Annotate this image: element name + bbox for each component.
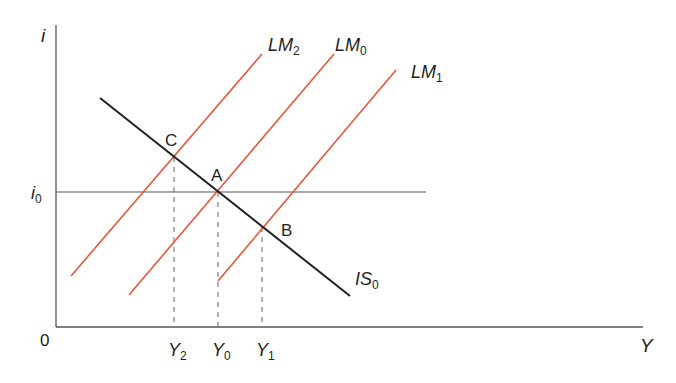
- lm1-label: LM1: [411, 62, 443, 85]
- point-a-label: A: [211, 166, 223, 185]
- is-lm-diagram: i Y 0 i0 LM2 LM0 LM1 IS0 C A B Y2 Y0 Y1: [0, 0, 676, 383]
- is0-label: IS0: [355, 269, 379, 292]
- y1-tick-label: Y1: [256, 340, 275, 363]
- lm2-curve: [71, 54, 262, 276]
- y2-tick-label: Y2: [168, 340, 187, 363]
- point-b-label: B: [281, 221, 292, 240]
- origin-label: 0: [40, 331, 49, 350]
- x-axis-label: Y: [640, 335, 654, 356]
- lm2-label: LM2: [268, 35, 300, 58]
- i0-label: i0: [31, 183, 42, 206]
- y0-tick-label: Y0: [212, 340, 231, 363]
- lm0-label: LM0: [335, 35, 367, 58]
- lm1-curve: [218, 70, 396, 281]
- is0-curve: [100, 98, 350, 296]
- point-c-label: C: [165, 131, 177, 150]
- y-axis-label: i: [41, 25, 46, 46]
